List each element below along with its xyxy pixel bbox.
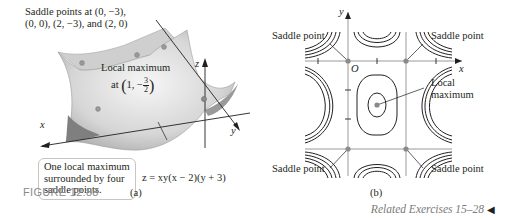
saddle-point-marker xyxy=(403,58,408,63)
origin-label: O xyxy=(351,63,359,75)
local-max-line-1: Local xyxy=(431,77,474,89)
local-max-line-2: maximum xyxy=(431,89,474,101)
related-exercises-text: Related Exercises 15–28 xyxy=(371,203,484,215)
related-exercises: Related Exercises 15–28 ◀ xyxy=(371,203,495,215)
saddle-label-bottom-right: Saddle point xyxy=(431,163,484,175)
axis-label-x: x xyxy=(459,63,464,75)
local-max-marker xyxy=(374,102,379,107)
local-max-label-b: Local maximum xyxy=(431,77,474,101)
panel-b-sublabel: (b) xyxy=(370,187,382,198)
axis-label-y: y xyxy=(339,6,344,18)
saddle-label-top-left: Saddle point xyxy=(272,30,325,42)
arrow-left-icon: ◀ xyxy=(487,204,495,215)
saddle-label-bottom-left: Saddle point xyxy=(272,163,325,175)
saddle-point-marker xyxy=(345,146,350,151)
saddle-point-marker xyxy=(403,146,408,151)
saddle-label-top-right: Saddle point xyxy=(431,30,484,42)
saddle-point-marker xyxy=(345,58,350,63)
